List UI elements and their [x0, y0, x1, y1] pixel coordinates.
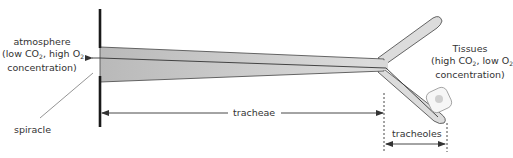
atmosphere-label-line3: concentration) — [2, 62, 82, 74]
atmosphere-label-line2: (low CO2, high O2 — [2, 48, 82, 63]
trachea-tube — [100, 47, 384, 82]
spiracle-pointer — [40, 73, 93, 118]
atmosphere-label: atmosphere (low CO2, high O2 concentrati… — [2, 36, 82, 74]
tissues-label-line2: (high CO2, low O2 — [431, 55, 509, 70]
tissues-label-line1: Tissues — [431, 43, 509, 55]
tracheae-label: tracheae — [233, 107, 275, 119]
tissues-label-line3: concentration) — [431, 69, 509, 81]
tissues-label: Tissues (high CO2, low O2 concentration) — [431, 43, 509, 81]
cell-nucleus — [435, 95, 443, 103]
tracheoles-label: tracheoles — [392, 128, 442, 140]
spiracle-label: spiracle — [14, 124, 51, 136]
atmosphere-label-line1: atmosphere — [2, 36, 82, 48]
